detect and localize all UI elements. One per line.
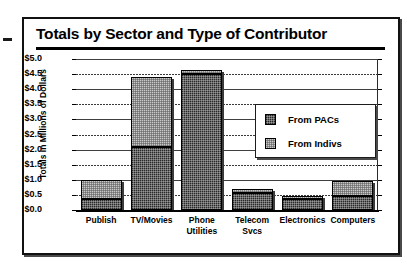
y-tick-label: $0.5 [0, 189, 42, 199]
y-tick-mark [378, 165, 382, 166]
y-tick-mark [72, 180, 76, 181]
y-tick-mark [72, 59, 76, 60]
chart-title: Totals by Sector and Type of Contributor [36, 25, 386, 43]
y-tick-mark [378, 195, 382, 196]
y-tick-mark [378, 119, 382, 120]
dark-checker-swatch-icon [265, 114, 276, 125]
bar-segment [232, 189, 273, 194]
y-tick-mark [72, 74, 76, 75]
legend-label-from-pacs: From PACs [288, 114, 339, 125]
y-tick-label: $3.5 [0, 98, 42, 108]
y-tick-label: $4.0 [0, 83, 42, 93]
legend-item-from-indivs: From Indivs [265, 136, 342, 150]
y-tick-mark [72, 104, 76, 105]
bar-stack [81, 59, 122, 210]
category-label: Electronics [277, 215, 327, 226]
y-tick-mark [378, 135, 382, 136]
chart-legend: From PACs From Indivs [255, 104, 376, 158]
y-tick-mark [72, 165, 76, 166]
bar-stack [131, 59, 172, 210]
light-checker-swatch-icon [265, 138, 276, 149]
legend-item-from-pacs: From PACs [265, 112, 339, 126]
y-tick-mark [72, 89, 76, 90]
chart-figure-frame: Totals by Sector and Type of Contributor… [22, 17, 400, 255]
y-tick-mark [378, 59, 382, 60]
title-underline-rule [36, 47, 385, 50]
bar-shadow [222, 72, 224, 212]
y-tick-mark [72, 119, 76, 120]
bar-segment [332, 181, 373, 196]
legend-label-from-indivs: From Indivs [288, 138, 342, 149]
y-tick-label: $2.5 [0, 129, 42, 139]
bar-segment [232, 193, 273, 210]
bar-segment [131, 77, 172, 146]
page-edge-mark [3, 38, 12, 41]
category-label: Publish [76, 215, 126, 226]
bar-shadow [172, 79, 174, 212]
bar-segment [81, 180, 122, 200]
bar-segment [181, 70, 222, 75]
y-tick-label: $0.0 [0, 204, 42, 214]
bar-segment [131, 147, 172, 210]
y-tick-mark [378, 104, 382, 105]
bar-segment [181, 74, 222, 210]
bar-segment [81, 199, 122, 210]
bar-shadow [273, 191, 275, 212]
bar-segment [332, 196, 373, 210]
y-tick-label: $5.0 [0, 53, 42, 63]
y-tick-mark [378, 180, 382, 181]
bar-shadow [373, 183, 375, 212]
bar-segment [282, 199, 323, 210]
y-tick-label: $2.0 [0, 144, 42, 154]
x-axis-baseline [76, 210, 379, 212]
y-tick-label: $4.5 [0, 68, 42, 78]
bar-shadow [122, 182, 124, 212]
bar-stack [181, 59, 222, 210]
category-label: Computers [328, 215, 378, 226]
y-tick-mark [72, 135, 76, 136]
category-label: TelecomSvcs [227, 215, 277, 236]
y-tick-mark [378, 89, 382, 90]
y-tick-label: $3.0 [0, 113, 42, 123]
y-tick-mark [72, 150, 76, 151]
y-tick-mark [72, 195, 76, 196]
y-tick-label: $1.0 [0, 174, 42, 184]
category-label: PhoneUtilities [177, 215, 227, 236]
bar-segment [282, 196, 323, 199]
y-tick-mark [378, 150, 382, 151]
y-tick-mark [378, 74, 382, 75]
category-label: TV/Movies [126, 215, 176, 226]
y-tick-label: $1.5 [0, 159, 42, 169]
